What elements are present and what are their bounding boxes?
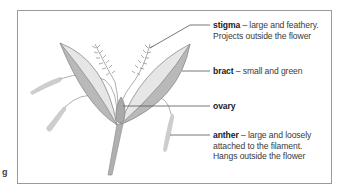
desc-anther: – large and loosely [239, 130, 312, 140]
term-ovary: ovary [213, 101, 235, 111]
desc-stigma-line2: Projects outside the flower [213, 31, 311, 41]
label-stigma: stigma – large and feathery. Projects ou… [213, 20, 319, 41]
term-anther: anther [213, 130, 239, 140]
left-bract [60, 43, 117, 125]
cropped-page-glyph: g [2, 167, 8, 177]
stem [108, 124, 123, 175]
desc-anther-line3: Hangs outside the flower [213, 151, 305, 161]
label-bract: bract – small and green [213, 66, 302, 77]
desc-bract: – small and green [234, 66, 303, 76]
label-ovary: ovary [213, 101, 235, 112]
desc-stigma: – large and feathery. [240, 20, 318, 30]
term-bract: bract [213, 66, 234, 76]
desc-anther-line2: attached to the filament. [213, 141, 302, 151]
ovary-shape [116, 97, 125, 123]
term-stigma: stigma [213, 20, 240, 30]
label-anther: anther – large and loosely attached to t… [213, 130, 311, 162]
right-bract [120, 44, 190, 125]
